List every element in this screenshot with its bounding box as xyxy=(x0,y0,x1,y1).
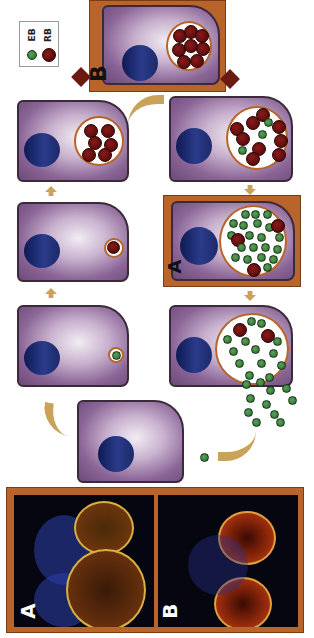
eb-legend-label: EB xyxy=(27,28,37,41)
arrow-up xyxy=(45,186,57,196)
curved-arrow-right xyxy=(128,95,164,126)
free-eb xyxy=(200,453,209,462)
micrograph-label-b: B xyxy=(158,603,182,618)
panel-b-frame: B xyxy=(89,0,226,92)
cell-left-1 xyxy=(17,100,129,182)
uninfected-cell xyxy=(77,400,184,483)
arrow-down xyxy=(244,185,256,195)
cell-right-3 xyxy=(169,305,293,387)
eb-legend-dot xyxy=(27,50,37,60)
cell-left-3 xyxy=(17,305,129,387)
cell-right-1 xyxy=(169,96,293,182)
rb-legend-label: RB xyxy=(43,28,53,42)
curved-arrow-up-left xyxy=(40,402,84,438)
infected-cell xyxy=(102,5,220,85)
panel-label-b: B xyxy=(86,65,111,82)
panel-a-frame: A xyxy=(163,195,301,287)
micrograph-b: B xyxy=(158,495,298,627)
rb-legend-dot xyxy=(42,48,56,62)
micrograph-frame: A B xyxy=(6,487,304,633)
cell-left-2 xyxy=(17,202,129,282)
arrow-up xyxy=(45,288,57,298)
curved-arrow-left xyxy=(218,430,256,461)
panel-label-a: A xyxy=(164,260,185,274)
nucleus xyxy=(122,45,158,81)
arrow-down xyxy=(244,291,256,301)
micrograph-label-a: A xyxy=(16,603,40,618)
legend: EB RB xyxy=(19,21,59,67)
micrograph-a: A xyxy=(14,495,154,627)
inclusion xyxy=(166,21,212,71)
